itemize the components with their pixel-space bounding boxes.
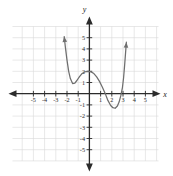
y-tick-label: 5 — [82, 34, 85, 41]
x-axis-label: x — [162, 90, 167, 99]
x-tick-label: -3 — [53, 96, 58, 103]
x-tick-label: -2 — [64, 96, 69, 103]
y-tick-label: 4 — [82, 45, 85, 52]
y-tick-label: -3 — [80, 124, 85, 131]
y-tick-label: 1 — [82, 79, 85, 86]
y-axis-label: y — [82, 5, 87, 14]
y-tick-label: -5 — [80, 146, 85, 153]
x-tick-label: 5 — [144, 96, 147, 103]
x-tick-label: 4 — [133, 96, 136, 103]
x-tick-label: 3 — [121, 96, 124, 103]
y-tick-label: -1 — [80, 101, 85, 108]
y-tick-label: -4 — [80, 135, 85, 142]
graph-figure: -5 -4 -3 -2 -1 1 2 3 4 5 5 4 3 2 1 -1 -2… — [0, 0, 173, 176]
y-tick-label: 3 — [82, 56, 85, 63]
x-tick-label: -5 — [31, 96, 36, 103]
x-tick-label: -4 — [42, 96, 47, 103]
x-tick-label: 2 — [110, 96, 113, 103]
coordinate-plane-svg: -5 -4 -3 -2 -1 1 2 3 4 5 5 4 3 2 1 -1 -2… — [0, 0, 173, 176]
y-tick-label: -2 — [80, 112, 85, 119]
x-tick-label: 1 — [99, 96, 102, 103]
